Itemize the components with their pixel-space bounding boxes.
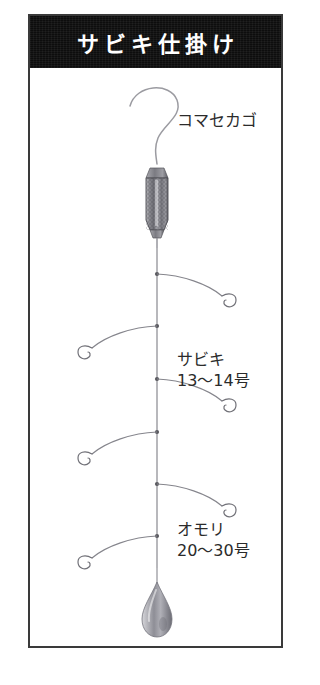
diagram-frame: サビキ仕掛け [28,14,283,648]
label-sabiki-size: 13〜14号 [177,370,250,391]
label-sinker: オモリ 20〜30号 [177,519,250,561]
sabiki-branch-5 [155,482,236,517]
sabiki-branch-1 [155,272,236,307]
lead-sinker-icon [142,568,172,637]
label-chum-cage: コマセカゴ [177,110,257,131]
top-line-loop [130,88,178,164]
page-title: サビキ仕掛け [72,26,239,58]
label-sinker-name: オモリ [177,519,250,540]
title-bar: サビキ仕掛け [30,16,281,68]
sabiki-branch-4 [78,430,159,465]
sabiki-branch-6 [78,534,159,569]
label-chum-cage-text: コマセカゴ [177,111,257,130]
sabiki-branch-2 [78,324,159,359]
label-sabiki: サビキ 13〜14号 [177,349,250,391]
chum-cage-icon [146,168,168,248]
label-sabiki-name: サビキ [177,349,250,370]
label-sinker-size: 20〜30号 [177,540,250,561]
